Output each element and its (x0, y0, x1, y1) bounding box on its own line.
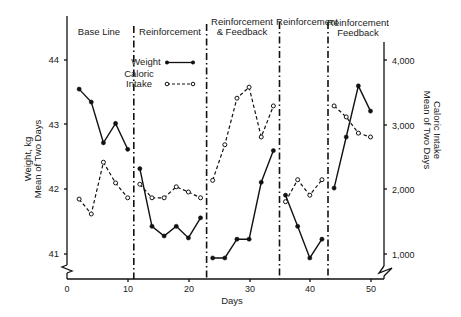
weight-point (247, 237, 251, 241)
caloric-point (77, 197, 81, 201)
yr-tick-4000: 4,000 (392, 56, 415, 66)
weight-point (368, 109, 372, 113)
x-tick-10: 10 (123, 284, 133, 294)
weight-point (356, 84, 360, 88)
y-tick-43: 43 (48, 119, 59, 130)
weight-point (101, 141, 105, 145)
x-axis (67, 279, 384, 282)
caloric-point (162, 196, 166, 200)
caloric-point (356, 131, 360, 135)
left-y-axis (62, 16, 72, 279)
weight-point (259, 180, 263, 184)
weight-point (320, 237, 324, 241)
phase-label-feedback-2: Feedback (337, 27, 379, 38)
left-tick-labels: 44 43 42 41 (48, 54, 59, 259)
weight-point (283, 193, 287, 197)
y-tick-44: 44 (48, 54, 59, 65)
weight-point (271, 148, 275, 152)
caloric-point (101, 160, 105, 164)
caloric-point (223, 143, 227, 147)
caloric-point (199, 196, 203, 200)
right-y-axis (379, 42, 392, 279)
caloric-point (235, 96, 239, 100)
weight-point (174, 224, 178, 228)
yr-tick-1000: 1,000 (392, 250, 415, 260)
y-tick-41: 41 (48, 248, 59, 259)
legend: Weight Caloric Intake (124, 56, 195, 89)
x-tick-20: 20 (184, 284, 194, 294)
caloric-point (126, 196, 130, 200)
weight-point (150, 224, 154, 228)
caloric-point (211, 178, 215, 182)
phase-label-reinforcement-1: Reinforcement (139, 26, 201, 37)
x-tick-0: 0 (64, 284, 69, 294)
caloric-point (296, 178, 300, 182)
weight-point (89, 100, 93, 104)
weight-point (138, 167, 142, 171)
phase-labels: Base Line Reinforcement Reinforcement & … (78, 16, 389, 38)
legend-weight-label: Weight (131, 56, 161, 67)
caloric-point (138, 182, 142, 186)
phase-label-baseline: Base Line (78, 26, 120, 37)
weight-point (308, 256, 312, 260)
right-tick-labels: 4,000 3,000 2,000 1,000 (392, 56, 415, 260)
caloric-point (186, 190, 190, 194)
phase-label-reinforcement-feedback-2: & Feedback (217, 26, 268, 37)
caloric-point (114, 181, 118, 185)
caloric-line (286, 180, 322, 202)
right-axis-title-line2: Mean of Two Days (422, 91, 433, 170)
caloric-point (332, 104, 336, 108)
weight-line (79, 89, 128, 149)
weight-point (126, 147, 130, 151)
y-tick-42: 42 (48, 183, 59, 194)
x-tick-labels: 0 10 20 30 40 50 (64, 284, 376, 294)
weight-line (140, 169, 201, 238)
weight-caloric-chart: Weight Caloric Intake Base Line Reinforc… (0, 0, 461, 317)
legend-caloric-label-2: Intake (126, 78, 152, 89)
caloric-line (213, 87, 274, 180)
right-axis-title: Caloric Intake Mean of Two Days (422, 91, 443, 170)
weight-point (235, 237, 239, 241)
caloric-point (308, 193, 312, 197)
yr-tick-2000: 2,000 (392, 185, 415, 195)
caloric-line (79, 162, 128, 214)
weight-point (296, 224, 300, 228)
phase-dividers (134, 22, 328, 279)
caloric-point (150, 196, 154, 200)
caloric-point (174, 185, 178, 189)
weight-point (344, 135, 348, 139)
weight-point (113, 121, 117, 125)
weight-point (332, 186, 336, 190)
yr-tick-3000: 3,000 (392, 121, 415, 131)
caloric-point (259, 135, 263, 139)
weight-point (186, 236, 190, 240)
x-tick-30: 30 (245, 284, 255, 294)
weight-point (77, 87, 81, 91)
caloric-point (344, 115, 348, 119)
caloric-point (271, 104, 275, 108)
weight-point (223, 256, 227, 260)
x-tick-50: 50 (366, 284, 376, 294)
weight-line (334, 86, 370, 188)
caloric-line (140, 184, 201, 198)
left-axis-title-line2: Mean of Two Days (32, 120, 43, 199)
left-axis-title: Weight, kg Mean of Two Days (22, 120, 43, 199)
x-axis-label: Days (221, 295, 243, 306)
caloric-point (89, 212, 93, 216)
caloric-point (369, 135, 373, 139)
weight-point (198, 216, 202, 220)
caloric-point (320, 178, 324, 182)
caloric-point (247, 85, 251, 89)
x-tick-40: 40 (305, 284, 315, 294)
weight-point (162, 234, 166, 238)
weight-line (213, 151, 274, 258)
weight-point (211, 256, 215, 260)
weight-line (286, 195, 322, 258)
caloric-point (284, 200, 288, 204)
